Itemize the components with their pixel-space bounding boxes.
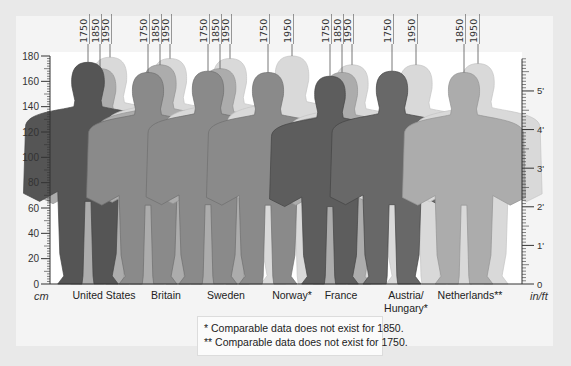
- right-tick-label: 5': [537, 85, 544, 96]
- footnote-1750: ** Comparable data does not exist for 17…: [204, 335, 376, 349]
- right-unit-label: in/ft: [530, 290, 549, 302]
- footnote-1850: * Comparable data does not exist for 185…: [204, 321, 376, 335]
- left-tick-label: 120: [22, 127, 39, 138]
- right-tick-label: 0: [537, 279, 542, 290]
- left-tick-label: 60: [28, 203, 40, 214]
- year-label: 1750: [78, 19, 89, 43]
- year-label: 1950: [406, 19, 417, 43]
- year-label: 1750: [258, 19, 269, 43]
- country-label: Austria/: [388, 289, 424, 301]
- height-chart: 1750185019501750185019501750185019501750…: [0, 0, 571, 366]
- country-label: Sweden: [207, 289, 245, 301]
- right-tick-label: 3': [537, 163, 544, 174]
- left-tick-label: 80: [28, 177, 40, 188]
- country-label: Norway*: [272, 289, 312, 301]
- year-label: 1950: [160, 19, 171, 43]
- year-label: 1950: [468, 19, 479, 43]
- left-tick-label: 40: [28, 228, 40, 239]
- year-label: 1950: [342, 19, 353, 43]
- year-label: 1850: [454, 19, 465, 43]
- country-label: Britain: [151, 289, 181, 301]
- year-label: 1750: [138, 19, 149, 43]
- country-label-line2: Hungary*: [384, 302, 428, 314]
- right-tick-label: 2': [537, 201, 544, 212]
- left-tick-label: 160: [22, 76, 39, 87]
- year-label: 1950: [220, 19, 231, 43]
- left-tick-label: 140: [22, 101, 39, 112]
- left-tick-label: 20: [28, 253, 40, 264]
- year-label: 1750: [320, 19, 331, 43]
- country-label: France: [325, 289, 358, 301]
- left-tick-label: 0: [33, 279, 39, 290]
- right-tick-label: 1': [537, 240, 544, 251]
- year-label: 1750: [198, 19, 209, 43]
- year-label: 1750: [382, 19, 393, 43]
- country-label: Netherlands**: [438, 289, 503, 301]
- left-tick-label: 180: [22, 51, 39, 62]
- left-tick-label: 100: [22, 152, 39, 163]
- year-label: 1950: [282, 19, 293, 43]
- footnote-box: * Comparable data does not exist for 185…: [197, 316, 383, 356]
- left-unit-label: cm: [34, 290, 49, 302]
- right-tick-label: 4': [537, 124, 544, 135]
- country-label: United States: [72, 289, 135, 301]
- year-label: 1950: [100, 19, 111, 43]
